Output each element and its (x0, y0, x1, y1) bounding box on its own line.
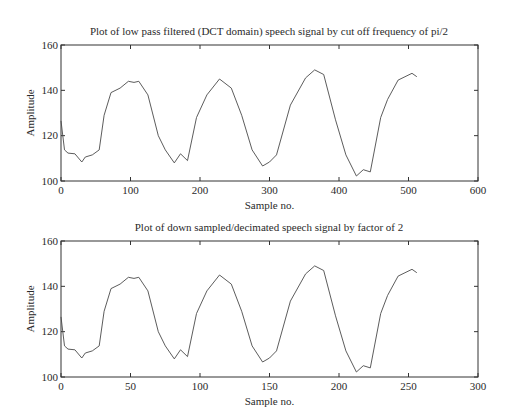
plot-2-title: Plot of down sampled/decimated speech si… (135, 221, 404, 233)
plot-2-ytick-label: 140 (42, 280, 59, 292)
plot-1-xlabel: Sample no. (245, 199, 295, 211)
plot-2-xtick-label: 50 (125, 380, 137, 392)
plot-1-signal-line (61, 70, 417, 176)
plot-1-xtick-label: 400 (331, 184, 348, 196)
plot-1-title: Plot of low pass filtered (DCT domain) s… (90, 25, 448, 38)
plot-1-yticks (61, 45, 478, 181)
plot-2-ytick-label: 100 (42, 371, 59, 383)
plot-2-xtick-label: 0 (58, 380, 64, 392)
plot-2-xtick-label: 250 (400, 380, 417, 392)
plot-2-ytick-label: 160 (42, 235, 59, 247)
plot-1-ytick-label: 160 (42, 39, 59, 51)
plot-1-ytick-label: 120 (42, 129, 59, 141)
plot-1-xticks (61, 45, 478, 181)
chart-canvas: Plot of low pass filtered (DCT domain) s… (0, 0, 508, 417)
plot-2-ytick-label: 120 (42, 325, 59, 337)
plot-2-ylabel: Amplitude (24, 285, 36, 332)
plot-2-signal-line (61, 266, 417, 372)
plot-1-axes-frame (61, 45, 478, 181)
plot-2: Plot of down sampled/decimated speech si… (24, 221, 487, 407)
plot-1-xtick-label: 200 (192, 184, 209, 196)
plot-1: Plot of low pass filtered (DCT domain) s… (24, 25, 487, 211)
plot-2-xtick-label: 300 (470, 380, 487, 392)
plot-2-xtick-label: 100 (192, 380, 209, 392)
plot-1-ylabel: Amplitude (24, 89, 36, 136)
plot-2-xlabel: Sample no. (245, 395, 295, 407)
plot-1-ytick-label: 100 (42, 175, 59, 187)
plot-1-xtick-label: 600 (470, 184, 487, 196)
plot-2-xtick-label: 200 (331, 380, 348, 392)
plot-1-xtick-label: 500 (400, 184, 417, 196)
plot-1-ytick-label: 140 (42, 84, 59, 96)
plot-2-xticks (61, 241, 478, 377)
plot-2-axes-frame (61, 241, 478, 377)
plot-2-xtick-label: 150 (261, 380, 278, 392)
plot-2-yticks (61, 241, 478, 377)
plot-1-xtick-label: 0 (58, 184, 64, 196)
plot-1-xtick-label: 100 (122, 184, 139, 196)
plot-1-xtick-label: 300 (261, 184, 278, 196)
